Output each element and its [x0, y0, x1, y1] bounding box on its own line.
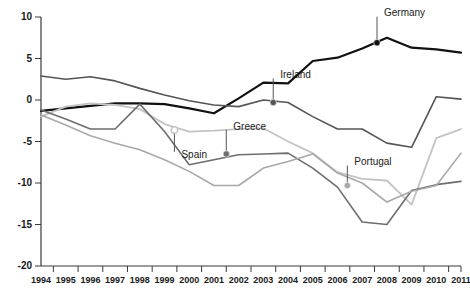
x-axis-tick-label: 2003 — [253, 275, 273, 285]
annotation-label-germany: Germany — [384, 7, 425, 18]
x-axis-tick-label: 2011 — [451, 275, 470, 285]
x-axis-tick-label: 2000 — [179, 275, 199, 285]
y-axis-tick-label: -5 — [23, 136, 32, 147]
x-axis: 1994199519961997199819992000200120022003… — [31, 266, 470, 285]
data-point-marker — [270, 99, 276, 105]
x-axis-tick-label: 2010 — [426, 275, 446, 285]
y-axis-tick-label: -20 — [18, 260, 33, 271]
x-axis-tick-label: 1994 — [31, 275, 51, 285]
series-annotation-portugal: Portugal — [344, 156, 391, 189]
x-axis-tick-label: 2008 — [377, 275, 397, 285]
x-axis-tick-label: 2009 — [402, 275, 422, 285]
data-point-marker — [374, 40, 380, 46]
y-axis-tick-label: -15 — [18, 219, 33, 230]
annotation-label-portugal: Portugal — [354, 156, 391, 167]
annotation-label-ireland: Ireland — [280, 69, 311, 80]
x-axis-tick-label: 1996 — [80, 275, 100, 285]
x-axis-tick-label: 2007 — [352, 275, 372, 285]
x-axis-tick-label: 2006 — [327, 275, 347, 285]
series-line-germany — [41, 38, 461, 114]
x-axis-tick-label: 1997 — [105, 275, 125, 285]
x-axis-tick-label: 1999 — [155, 275, 175, 285]
data-point-marker — [171, 127, 177, 133]
data-point-marker — [223, 151, 229, 157]
y-axis-tick-label: -10 — [18, 177, 33, 188]
x-axis-tick-label: 1998 — [130, 275, 150, 285]
data-point-marker — [344, 182, 350, 188]
series-line-ireland — [41, 76, 461, 147]
y-axis-tick-label: 0 — [26, 94, 32, 105]
x-axis-tick-label: 2005 — [303, 275, 323, 285]
y-axis: 1050-5-10-15-20 — [18, 11, 41, 271]
y-axis-tick-label: 5 — [26, 53, 32, 64]
chart-canvas: 1050-5-10-15-20 199419951996199719981999… — [0, 0, 470, 308]
series-annotation-greece: Greece — [223, 121, 266, 158]
x-axis-tick-label: 1995 — [56, 275, 76, 285]
annotation-label-spain: Spain — [181, 149, 207, 160]
x-axis-tick-label: 2001 — [204, 275, 224, 285]
y-axis-tick-label: 10 — [21, 11, 33, 22]
series-annotation-ireland: Ireland — [270, 69, 311, 106]
annotation-label-greece: Greece — [233, 121, 266, 132]
line-chart: 1050-5-10-15-20 199419951996199719981999… — [0, 0, 470, 308]
x-axis-tick-label: 2002 — [229, 275, 249, 285]
x-axis-tick-label: 2004 — [278, 275, 298, 285]
